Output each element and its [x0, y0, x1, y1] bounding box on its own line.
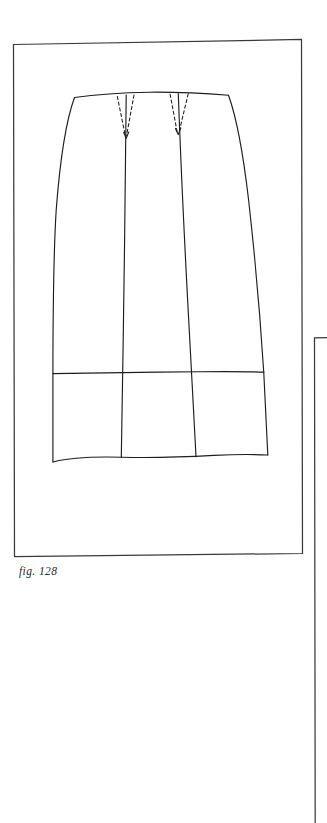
right-panel-seam: [178, 94, 196, 457]
skirt-drawing: [53, 92, 268, 462]
right-dart-leg-inner: [170, 94, 177, 132]
scanned-book-page: fig. 128: [0, 0, 327, 823]
left-side-seam: [53, 98, 75, 463]
left-panel-seam: [121, 95, 126, 457]
left-dart-leg-inner: [117, 96, 125, 136]
figure-illustration: [0, 0, 327, 823]
next-figure-frame-partial: [315, 338, 327, 823]
next-figure-frame-border: [315, 338, 327, 823]
hem-line: [53, 455, 268, 462]
lower-band-line: [53, 372, 264, 374]
left-dart-leg-outer: [127, 95, 134, 135]
right-dart-leg-outer: [179, 94, 188, 132]
right-side-seam: [229, 95, 268, 455]
waistline-top: [75, 92, 229, 97]
figure-frame-border: [14, 40, 303, 557]
figure-caption: fig. 128: [19, 564, 57, 579]
figure-frame: [14, 40, 303, 557]
